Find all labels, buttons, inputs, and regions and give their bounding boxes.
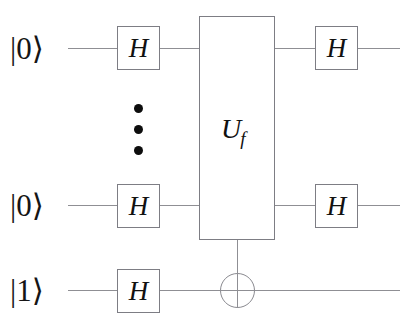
vertical-ellipsis-dot-3 (134, 146, 143, 155)
oracle-uf-symbol: U (221, 113, 241, 144)
hadamard-gate-q1-right-label: H (315, 184, 358, 228)
oracle-uf-label: Uf (221, 113, 246, 150)
cnot-target-crossbar (237, 273, 238, 308)
hadamard-gate-q0-right-label: H (315, 26, 358, 70)
oracle-uf-subscript: f (240, 128, 245, 149)
ket-label-q1: |0⟩ (10, 187, 44, 224)
vertical-ellipsis-dot-1 (134, 104, 143, 113)
quantum-circuit-diagram: |0⟩ |0⟩ |1⟩ H H H Uf H H (0, 0, 417, 328)
ket-label-q2: |1⟩ (10, 272, 44, 309)
hadamard-gate-q2-left-label: H (117, 269, 160, 313)
ket-label-q0: |0⟩ (10, 30, 44, 67)
hadamard-gate-q1-left-label: H (117, 184, 160, 228)
hadamard-gate-q0-left-label: H (117, 26, 160, 70)
vertical-ellipsis-dot-2 (134, 125, 143, 134)
